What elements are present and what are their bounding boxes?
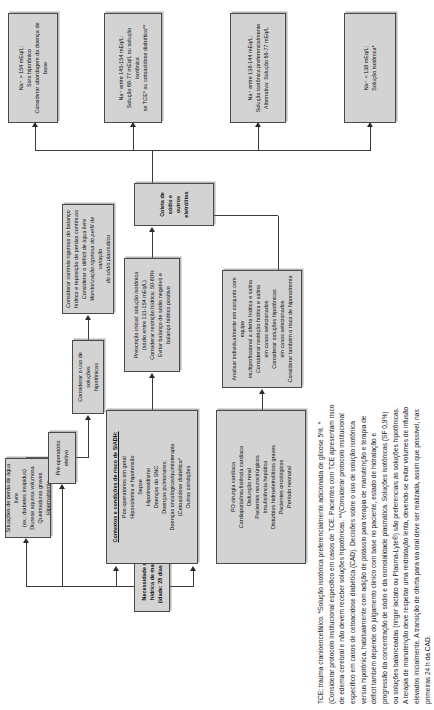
- list-item: Considerar soluções hipotônicas: [270, 274, 278, 384]
- list-item: Soro hipotônico: [25, 17, 33, 119]
- arrow-head: [85, 315, 91, 320]
- list-item: Considerar o déficit de água livre: [80, 208, 88, 310]
- list-item: Considerar o uso de soluções: [76, 344, 92, 410]
- list-item: Prescrição inicial: solução isotônica: [132, 262, 140, 368]
- list-item: Na⁺ entre 138-144 mEq/L:: [246, 17, 254, 119]
- node-heading: Contextos e condições de risco de SIADH:: [111, 414, 119, 560]
- connector-line: [278, 216, 279, 270]
- connector-line: [116, 569, 117, 587]
- list-item: Hipotireoidismo: [144, 414, 152, 560]
- list-item: hipotônicas: [92, 344, 100, 410]
- outcome-na-low[interactable]: Na⁺ < 138 mEq/L: Solução isotônica*: [344, 13, 396, 123]
- list-item: Solução isotônica*: [370, 17, 378, 119]
- list-item: Outras condições: [184, 414, 192, 560]
- node-collect-sodium-electrolytes[interactable]: Coleta de sódio e outros eletrólitos: [134, 183, 214, 226]
- connector-line: [35, 150, 370, 151]
- outcome-na-high[interactable]: Na⁺ entre 145-154 mEq/L: Solução 68-77 m…: [104, 13, 162, 123]
- node-initial-prescription[interactable]: Prescrição inicial: solução isotônica (s…: [124, 258, 180, 372]
- node-siadh-risk-contexts[interactable]: Contextos e condições de risco de SIADH:…: [106, 410, 198, 564]
- rotated-diagram-wrapper: Necessidade de terapia hídrica de manute…: [0, 0, 434, 710]
- list-item: Cardiopatia/insuficiência cardíaca: [237, 414, 245, 560]
- connector-line: [88, 318, 89, 340]
- list-item: Pacientes oncológicos: [277, 414, 285, 560]
- list-item: Período neonatal: [285, 414, 293, 560]
- footnote-text: TCE: trauma cranioencefálico. *Solução i…: [316, 404, 433, 704]
- list-item: Hipovolemia e hipotensão: [128, 414, 136, 560]
- list-item: Considerar restrição hídrica: 50-80%: [148, 262, 156, 368]
- list-item: Disfunção renal: [245, 414, 253, 560]
- connector-line: [152, 230, 153, 258]
- list-item: Considerar restrição hídrica e salina: [254, 274, 262, 384]
- node-label: Coleta de sódio e outros eletrólitos: [158, 187, 190, 222]
- list-item: Na⁺ entre 145-154 mEq/L:: [117, 17, 125, 119]
- connector-line: [262, 392, 263, 410]
- list-item: Insuficiência hepática: [261, 414, 269, 560]
- connector-line: [26, 541, 27, 587]
- list-item: Pré-operatório: [54, 436, 62, 480]
- list-item: Na⁺ < 138 mEq/L:: [362, 17, 370, 119]
- arrow-head: [59, 484, 65, 489]
- list-item: eletivo: [62, 436, 70, 480]
- list-item: Sepse: [136, 414, 144, 560]
- list-item: Doenças do SNC: [152, 414, 160, 560]
- arrow-head: [113, 566, 119, 571]
- list-item: (sódio entre 131-154 mEq/L): [140, 262, 148, 368]
- connector-line: [35, 125, 36, 151]
- connector-line: [258, 125, 259, 151]
- list-item: multiprofissional a oferta hídrica e sal…: [246, 274, 254, 384]
- connector-line: [370, 125, 371, 151]
- outcome-na-very-high[interactable]: Na⁺ > 154 mEq/L: Soro hipotônico Conside…: [8, 13, 58, 123]
- list-item: Considerar também o risco de hiponatremi…: [286, 274, 294, 384]
- node-strict-balance-control[interactable]: Considerar controle rigoroso do balanço …: [62, 204, 114, 314]
- list-item: Pós-operatórios em geral: [120, 414, 128, 560]
- arrow-head: [23, 538, 29, 543]
- list-item: PO cirurgia cardíaca: [229, 414, 237, 560]
- connector-line: [193, 569, 194, 587]
- arrow-head: [149, 227, 155, 232]
- node-preoperative-elective[interactable]: Pré-operatório eletivo: [48, 432, 76, 484]
- list-item: Solução 68-77 mEq/L ou solução isotônica: [125, 17, 141, 119]
- list-item: Pacientes neurocirúrgicos: [253, 414, 261, 560]
- list-item: Alternativa: Solução 68-77 mEq/L: [262, 17, 270, 119]
- list-item: em casos selecionados: [262, 274, 270, 384]
- list-item: do sódio plasmático: [104, 208, 112, 310]
- outcome-na-normal[interactable]: Na⁺ entre 138-144 mEq/L: Solução isotôni…: [230, 13, 286, 123]
- list-item: (Cetoacidose diabética*: [176, 414, 184, 560]
- connector-line: [133, 125, 134, 151]
- list-item: Considerar abordagem da doença de base: [33, 17, 49, 119]
- list-item: Doenças oncológicas/quimioterapia: [168, 414, 176, 560]
- connector-line: [152, 376, 153, 410]
- list-item: Monitorização rigorosa do perfil de vari…: [88, 208, 104, 310]
- list-item: Solução isotônica preferencialmente: [254, 17, 262, 119]
- list-item: Distúrbios hidroeletrolíticos graves: [269, 414, 277, 560]
- flowchart-canvas: Necessidade de terapia hídrica de manute…: [0, 0, 434, 710]
- list-item: hídrico e reposição de perdas contínuas: [72, 208, 80, 310]
- list-item: Doenças pulmonares;: [160, 414, 168, 560]
- connector-line: [152, 151, 153, 183]
- list-item: Na⁺ > 154 mEq/L:: [17, 17, 25, 119]
- list-item: Diurese aquosa volumosa: [28, 462, 36, 534]
- node-individual-analysis[interactable]: Analisar individualmente em conjunto com…: [222, 270, 302, 388]
- list-item: Situações de perda de água livre: [4, 462, 20, 534]
- list-item: Analisar individualmente em conjunto com…: [230, 274, 246, 384]
- arrow-head: [149, 373, 155, 378]
- list-item: balanço hídrico positivo: [164, 262, 172, 368]
- arrow-head: [85, 415, 91, 420]
- node-consider-hypotonic-solutions[interactable]: Considerar o uso de soluções hipotônicas: [72, 340, 104, 414]
- arrow-head: [259, 389, 265, 394]
- list-item: Queimaduras graves: [36, 462, 44, 534]
- list-item: (ex.: diabetes insipidus): [20, 462, 28, 534]
- list-item: Evitar balanço de sódio negativo e: [156, 262, 164, 368]
- node-special-conditions[interactable]: PO cirurgia cardíaca Cardiopatia/insufic…: [216, 410, 306, 564]
- connector-line: [88, 418, 89, 458]
- node-free-water-loss[interactable]: Situações de perda de água livre (ex.: d…: [5, 458, 51, 538]
- arrow-head: [190, 566, 196, 571]
- list-item: em casos selecionados: [278, 274, 286, 384]
- list-item: se TCE* ou cetoacidose diabética**: [141, 17, 149, 119]
- connector-line: [62, 487, 63, 587]
- list-item: Considerar controle rigoroso do balanço: [64, 208, 72, 310]
